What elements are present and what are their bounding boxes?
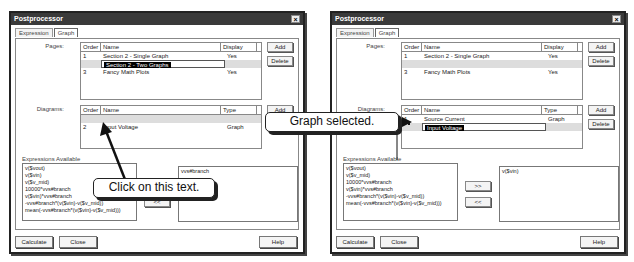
callout-click-text: Click on this text. bbox=[93, 178, 215, 198]
callout-graph-selected: Graph selected. bbox=[265, 112, 399, 132]
arrow-head-icon bbox=[100, 122, 112, 136]
